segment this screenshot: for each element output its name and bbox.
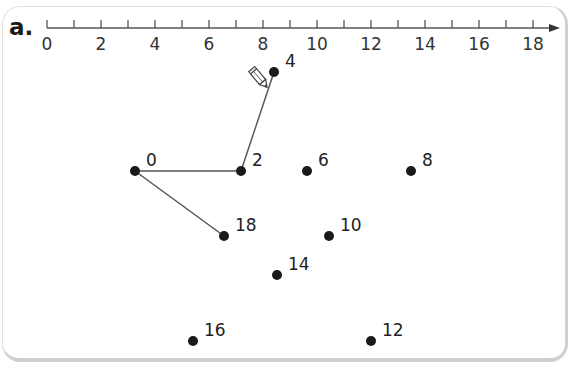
dot-label: 16 <box>204 320 226 340</box>
dot-point: 2 <box>236 150 263 176</box>
arrow-icon <box>549 24 560 32</box>
dot-label: 10 <box>340 215 362 235</box>
tick-label: 12 <box>360 34 382 54</box>
number-line: 024681012141618 <box>42 20 560 54</box>
tick-label: 10 <box>306 34 328 54</box>
pencil-icon <box>249 66 271 90</box>
dot-point: 10 <box>324 215 362 241</box>
tick-label: 2 <box>96 34 107 54</box>
dot-point: 4 <box>269 51 296 77</box>
dot-to-dot-diagram: 024681012141618 024681012141618 <box>0 0 573 369</box>
dot-point: 6 <box>302 150 329 176</box>
dots: 024681012141618 <box>130 51 433 346</box>
dot-label: 14 <box>288 254 310 274</box>
connection-line <box>135 171 224 236</box>
tick-label: 0 <box>42 34 53 54</box>
dot-label: 4 <box>285 51 296 71</box>
tick-label: 16 <box>468 34 490 54</box>
tick-label: 14 <box>414 34 436 54</box>
dot-label: 18 <box>235 215 257 235</box>
tick-label: 18 <box>522 34 544 54</box>
dot-label: 6 <box>318 150 329 170</box>
dot-label: 8 <box>422 150 433 170</box>
dot-point: 12 <box>366 320 404 346</box>
tick-label: 4 <box>150 34 161 54</box>
dot-label: 2 <box>252 150 263 170</box>
tick-label: 6 <box>204 34 215 54</box>
dot-point: 16 <box>188 320 226 346</box>
dot-point: 18 <box>219 215 257 241</box>
dot-label: 12 <box>382 320 404 340</box>
dot-label: 0 <box>146 150 157 170</box>
dot-point: 8 <box>406 150 433 176</box>
tick-label: 8 <box>258 34 269 54</box>
dot-point: 14 <box>272 254 310 280</box>
dot-point: 0 <box>130 150 157 176</box>
